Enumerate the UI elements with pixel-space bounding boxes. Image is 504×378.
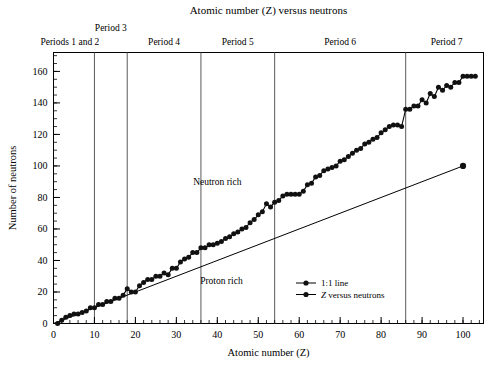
chart-legend: 1:1 lineZ versus neutrons [296, 278, 385, 300]
chart-title-group: Atomic number (Z) versus neutrons [190, 4, 348, 17]
data-point-marker [346, 154, 351, 159]
data-point-marker [473, 74, 478, 79]
axis-titles-group: Atomic number (Z)Number of neutrons [7, 146, 310, 359]
data-point-marker [227, 234, 232, 239]
x-axis-tick-label: 30 [171, 329, 181, 340]
data-point-marker [125, 286, 130, 291]
data-point-marker [309, 181, 314, 186]
data-point-marker [342, 157, 347, 162]
x-axis-tick-label: 80 [376, 329, 386, 340]
period-label: Period 3 [95, 23, 127, 33]
data-point-marker [157, 274, 162, 279]
data-point-marker [235, 230, 240, 235]
data-point-marker [137, 283, 142, 288]
data-point-marker [166, 272, 171, 277]
legend-entry-label: Z versus neutrons [321, 290, 385, 300]
data-point-marker [407, 107, 412, 112]
x-axis-tick-label: 20 [130, 329, 140, 340]
period-label: Periods 1 and 2 [40, 37, 99, 47]
data-point-marker [121, 293, 126, 298]
chart-title: Atomic number (Z) versus neutrons [190, 4, 348, 17]
data-point-marker [366, 140, 371, 145]
y-axis-tick-label: 80 [38, 192, 48, 203]
x-axis-tick-label: 100 [456, 329, 471, 340]
one-to-one-line-endpoint-marker [460, 163, 466, 169]
data-point-marker [428, 91, 433, 96]
data-point-marker [256, 212, 261, 217]
data-point-marker [100, 302, 105, 307]
data-point-marker [424, 100, 429, 105]
data-point-marker [334, 163, 339, 168]
period-label: Period 5 [222, 37, 254, 47]
atomic-number-vs-neutrons-chart: Atomic number (Z) versus neutrons Period… [0, 0, 504, 378]
data-point-marker [92, 305, 97, 310]
x-axis-tick-label: 10 [89, 329, 99, 340]
data-point-marker [375, 135, 380, 140]
y-axis-tick-label: 160 [33, 66, 48, 77]
x-axis-tick-label: 0 [51, 329, 56, 340]
data-point-marker [260, 209, 265, 214]
data-point-marker [456, 80, 461, 85]
y-axis-tick-label: 20 [38, 286, 48, 297]
y-axis-tick-label: 40 [38, 255, 48, 266]
data-point-marker [448, 85, 453, 90]
data-point-marker [415, 104, 420, 109]
x-axis-title: Atomic number (Z) [227, 347, 310, 359]
x-axis-tick-label: 70 [335, 329, 345, 340]
data-point-marker [264, 201, 269, 206]
y-axis-tick-label: 120 [33, 129, 48, 140]
data-point-marker [276, 198, 281, 203]
x-axis-ticks-group: 0102030405060708090100 [51, 317, 479, 340]
data-point-marker [358, 146, 363, 151]
data-point-marker [84, 308, 89, 313]
data-point-marker [317, 173, 322, 178]
data-point-marker [194, 250, 199, 255]
data-point-marker [186, 255, 191, 260]
plot-area-frame [54, 53, 484, 324]
plot-annotation: Neutron rich [193, 177, 242, 187]
legend-entry-label: 1:1 line [321, 278, 348, 288]
x-axis-tick-label: 90 [417, 329, 427, 340]
plot-annotation: Proton rich [200, 276, 243, 286]
legend-marker-icon [303, 292, 308, 297]
data-point-marker [133, 289, 138, 294]
data-point-marker [440, 88, 445, 93]
data-point-marker [420, 97, 425, 102]
data-point-marker [55, 321, 60, 326]
data-point-marker [297, 192, 302, 197]
y-axis-tick-label: 0 [43, 318, 48, 329]
data-point-marker [432, 94, 437, 99]
data-point-marker [108, 299, 113, 304]
legend-marker-icon [303, 280, 308, 285]
y-axis-tick-label: 100 [33, 160, 48, 171]
data-point-marker [383, 127, 388, 132]
plot-frame-group [54, 53, 484, 324]
data-point-marker [219, 239, 224, 244]
data-point-marker [141, 280, 146, 285]
data-point-marker [117, 296, 122, 301]
z-versus-neutrons-line [58, 76, 476, 323]
period-label: Period 4 [148, 37, 180, 47]
period-labels-group: Periods 1 and 2Period 3Period 4Period 5P… [40, 23, 462, 47]
data-point-marker [203, 245, 208, 250]
data-point-marker [248, 220, 253, 225]
data-point-marker [399, 124, 404, 129]
z-versus-neutrons-series-group [55, 74, 478, 326]
data-point-marker [268, 204, 273, 209]
data-point-marker [178, 260, 183, 265]
y-axis-title: Number of neutrons [7, 146, 18, 231]
period-label: Period 6 [324, 37, 356, 47]
data-point-marker [149, 277, 154, 282]
y-axis-tick-label: 60 [38, 223, 48, 234]
period-label: Period 7 [431, 37, 463, 47]
data-point-marker [379, 130, 384, 135]
x-axis-tick-label: 60 [294, 329, 304, 340]
data-point-marker [252, 217, 257, 222]
x-axis-tick-label: 50 [253, 329, 263, 340]
y-axis-ticks-group: 020406080100120140160 [33, 56, 61, 329]
y-axis-tick-label: 140 [33, 97, 48, 108]
data-point-marker [350, 151, 355, 156]
data-point-marker [436, 85, 441, 90]
data-point-marker [301, 189, 306, 194]
data-point-marker [243, 225, 248, 230]
